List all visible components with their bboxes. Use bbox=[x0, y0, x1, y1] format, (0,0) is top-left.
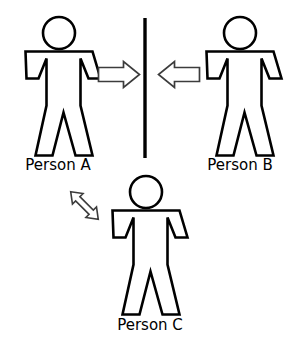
person-figure-c[interactable] bbox=[113, 176, 188, 315]
double-headed-arrow-icon[interactable] bbox=[65, 186, 103, 224]
person-a-label: Person A bbox=[6, 156, 110, 174]
person-b-body-icon bbox=[207, 52, 282, 156]
block-arrow-right-icon[interactable] bbox=[99, 62, 140, 88]
person-figure-b[interactable] bbox=[207, 17, 282, 156]
block-arrow-left-icon[interactable] bbox=[159, 62, 200, 88]
person-c-label: Person C bbox=[98, 316, 202, 334]
person-b-head-icon bbox=[224, 17, 256, 49]
diagram-canvas: Person A Person B Person C bbox=[0, 0, 290, 348]
person-b-label: Person B bbox=[188, 156, 290, 174]
diagram-svg bbox=[0, 0, 290, 348]
person-c-head-icon bbox=[130, 176, 162, 208]
person-a-head-icon bbox=[43, 17, 75, 49]
person-a-body-icon bbox=[26, 52, 101, 156]
person-c-body-icon bbox=[113, 211, 188, 315]
person-figure-a[interactable] bbox=[26, 17, 101, 156]
